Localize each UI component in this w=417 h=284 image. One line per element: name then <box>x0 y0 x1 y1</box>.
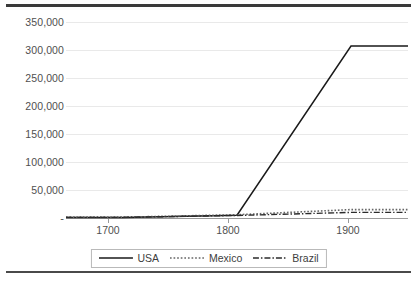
x-axis-label-1700: 1700 <box>96 224 119 236</box>
series-line-usa <box>66 46 408 217</box>
y-axis-label-50000: 50,000 <box>0 184 64 196</box>
chart-legend: USA Mexico Brazil <box>90 249 326 268</box>
y-axis-label-150000: 150,000 <box>0 128 64 140</box>
plot-area <box>66 22 408 218</box>
legend-label-brazil: Brazil <box>292 252 318 264</box>
x-axis-label-1800: 1800 <box>216 224 239 236</box>
legend-swatch-mexico-dotted-line-icon <box>170 254 204 262</box>
legend-label-usa: USA <box>137 252 159 264</box>
x-axis-label-1900: 1900 <box>336 224 359 236</box>
top-border-rule <box>6 4 411 7</box>
y-axis-label-250000: 250,000 <box>0 72 64 84</box>
legend-item-mexico[interactable]: Mexico <box>170 252 242 264</box>
y-axis-label-300000: 300,000 <box>0 44 64 56</box>
legend-swatch-usa-solid-line-icon <box>98 254 132 262</box>
legend-item-brazil[interactable]: Brazil <box>253 252 318 264</box>
y-axis-label-200000: 200,000 <box>0 100 64 112</box>
chart-container: 350,000 300,000 250,000 200,000 150,000 … <box>0 0 417 284</box>
legend-label-mexico: Mexico <box>209 252 242 264</box>
legend-swatch-brazil-dashdot-line-icon <box>253 254 287 262</box>
bottom-border-rule <box>6 271 411 273</box>
series-plot-lines <box>66 22 408 219</box>
legend-item-usa[interactable]: USA <box>98 252 159 264</box>
y-axis-label-100000: 100,000 <box>0 156 64 168</box>
y-axis-label-zero: - <box>0 212 66 224</box>
y-axis-label-350000: 350,000 <box>0 16 64 28</box>
